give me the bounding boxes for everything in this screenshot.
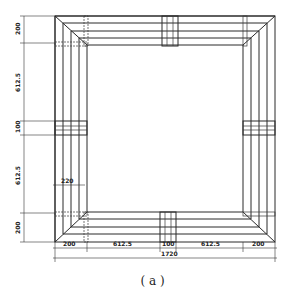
dim-left-bottom: 200: [14, 221, 21, 234]
frame-drawing: 200 612.5 100 612.5 200 220 200 612.5 10…: [0, 0, 305, 299]
mid-joint-connectors: [55, 16, 275, 242]
dim-left-lower: 612.5: [14, 166, 21, 185]
dim-bottom-mid: 100: [162, 240, 175, 247]
bottom-dimensions: 200 612.5 100 612.5 200 1720: [53, 240, 277, 262]
dim-bottom-right-span: 612.5: [201, 240, 220, 247]
corner-connectors: [55, 16, 275, 242]
dim-left-upper: 612.5: [14, 73, 21, 92]
dim-bottom-left: 200: [63, 240, 76, 247]
figure-caption: ( a ): [0, 274, 305, 288]
dim-inner-width: 220: [61, 177, 74, 184]
outer-frame: [55, 16, 275, 242]
inner-width-dimension: 220: [53, 177, 85, 185]
dim-left-top: 200: [14, 22, 21, 35]
dim-bottom-left-span: 612.5: [113, 240, 132, 247]
dim-bottom-right: 200: [252, 240, 265, 247]
dim-left-mid: 100: [14, 120, 21, 133]
dim-total: 1720: [161, 250, 178, 257]
left-dimensions: 200 612.5 100 612.5 200: [14, 16, 55, 242]
